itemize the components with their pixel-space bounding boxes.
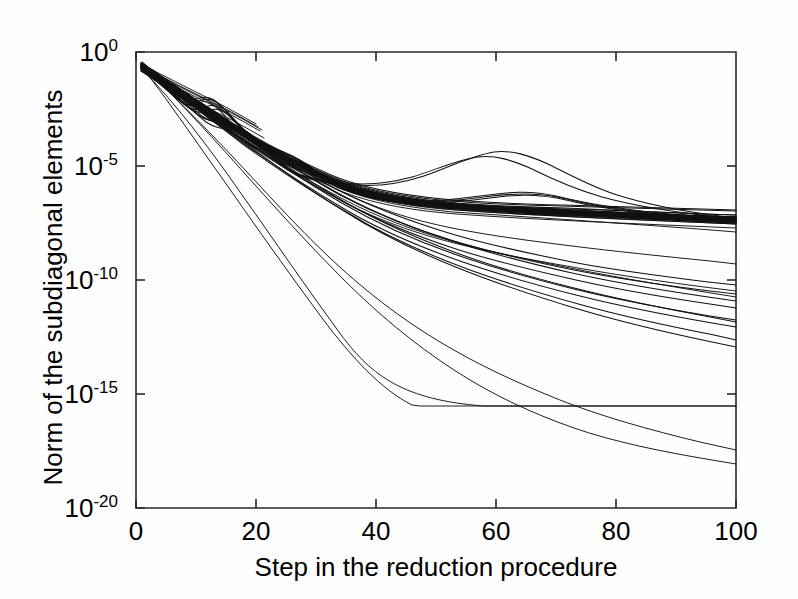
curve-bundle — [141, 62, 736, 464]
y-tick-base-1: 10 — [74, 151, 103, 181]
x-tick-label-4: 80 — [602, 518, 631, 544]
x-tick-label-1: 20 — [242, 518, 271, 544]
y-tick-exp-0: 0 — [109, 36, 118, 55]
x-tick-label-2: 40 — [362, 518, 391, 544]
chart-plot-area — [0, 0, 798, 599]
y-tick-exp-3: -15 — [93, 378, 118, 397]
x-axis-title: Step in the reduction procedure — [136, 552, 736, 583]
y-tick-base-3: 10 — [65, 379, 94, 409]
y-tick-base-0: 10 — [80, 37, 109, 67]
y-tick-exp-1: -5 — [103, 150, 118, 169]
figure-canvas: 100 10-5 10-10 10-15 10-20 0 20 40 60 80… — [0, 0, 798, 599]
y-axis-title: Norm of the subdiagonal elements — [38, 8, 69, 568]
y-tick-base-2: 10 — [65, 265, 94, 295]
x-tick-label-0: 0 — [129, 518, 143, 544]
x-tick-label-3: 60 — [482, 518, 511, 544]
x-tick-label-5: 100 — [714, 518, 757, 544]
y-tick-exp-4: -20 — [93, 492, 118, 511]
y-tick-base-4: 10 — [65, 493, 94, 523]
y-tick-exp-2: -10 — [93, 264, 118, 283]
